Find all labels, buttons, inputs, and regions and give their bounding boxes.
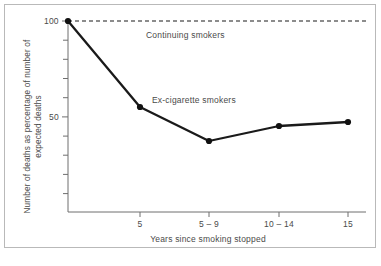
data-point [345, 119, 351, 125]
x-axis-tick-label-10-14: 10 – 14 [264, 219, 294, 229]
x-axis-tick-label-15: 15 [343, 219, 353, 229]
y-axis-tick-label-50: 50 [49, 112, 59, 122]
y-axis-title: Number of deaths as percentage of number… [23, 32, 44, 222]
y-axis-ticks [62, 21, 68, 194]
chart-figure: 100 50 5 5 – 9 10 – 14 15 Years since sm… [0, 0, 381, 266]
x-axis-ticks [140, 212, 348, 217]
annotation-continuing-smokers: Continuing smokers [146, 30, 225, 40]
data-point [206, 138, 212, 144]
y-axis-tick-label-100: 100 [44, 16, 59, 26]
x-axis-tick-label-5-9: 5 – 9 [199, 219, 219, 229]
data-point [65, 18, 71, 24]
data-point [137, 104, 143, 110]
annotation-ex-cigarette-smokers: Ex-cigarette smokers [152, 95, 236, 105]
x-axis-tick-label-5: 5 [138, 219, 143, 229]
data-point [276, 123, 282, 129]
x-axis-title: Years since smoking stopped [150, 234, 266, 244]
